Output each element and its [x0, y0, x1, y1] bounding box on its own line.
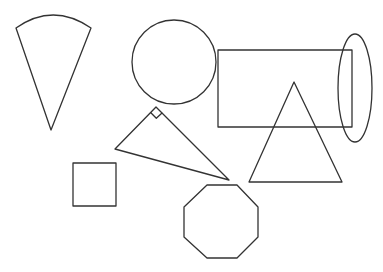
- right-angle-marker: [151, 113, 163, 119]
- ellipse-shape: [338, 34, 372, 142]
- isosceles-triangle-shape: [249, 82, 342, 182]
- sector-shape: [16, 15, 91, 130]
- octagon-shape: [184, 185, 258, 258]
- right-triangle-shape: [115, 107, 229, 180]
- rectangle-shape: [218, 50, 352, 127]
- square-shape: [73, 163, 116, 206]
- circle-shape: [132, 20, 216, 104]
- shapes-diagram: [0, 0, 383, 272]
